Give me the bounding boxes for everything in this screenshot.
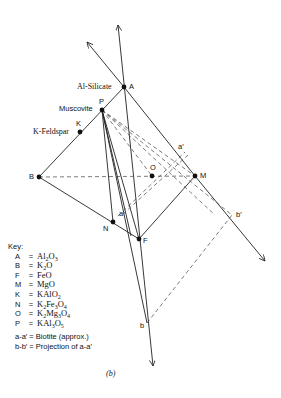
point-M (193, 174, 198, 179)
label-N: N (103, 225, 108, 233)
key-equals: = (25, 280, 37, 290)
key-symbol: P (8, 319, 25, 329)
edge-A-M (124, 87, 195, 176)
label-P: P (99, 98, 104, 106)
line-P-b (102, 110, 147, 323)
key-notes: a-a′ = Biotite (approx.) b-b′ = Projecti… (8, 332, 92, 351)
label-M: M (200, 172, 206, 180)
label-a-prime: a′ (178, 143, 184, 151)
key-symbol: M (8, 280, 25, 290)
key-symbol: B (8, 261, 25, 271)
point-B (37, 175, 42, 180)
key-entry: P=KAl3O5 (8, 319, 92, 329)
point-A (122, 85, 127, 90)
key-symbol: A (8, 252, 25, 262)
point-O (150, 174, 155, 179)
key-symbol: O (8, 309, 25, 319)
key-equals: = (25, 252, 37, 262)
label-b: b (140, 322, 144, 330)
point-K (78, 130, 83, 135)
label-F: F (143, 237, 148, 245)
key-legend: Key: A=Al2O3 B=K2O F=FeO M=MgO K=KAlO2 N… (8, 242, 92, 352)
edge-F-M (139, 176, 195, 239)
key-equals: = (25, 309, 37, 319)
label-A: A (129, 83, 134, 91)
label-K: K (76, 120, 81, 128)
note-biotite: a-a′ = Biotite (approx.) (15, 332, 92, 342)
key-equals: = (25, 319, 37, 329)
figure-caption: (b) (106, 369, 115, 378)
label-O: O (150, 164, 156, 172)
line-P-bprime (102, 110, 232, 215)
point-P (100, 108, 105, 113)
label-muscovite: Muscovite (59, 105, 93, 113)
label-B: B (29, 173, 34, 181)
key-symbol: K (8, 290, 25, 300)
key-formula: KAl3O5 (37, 319, 64, 329)
label-k-feldspar: K-Feldspar (33, 128, 69, 136)
key-symbol: F (8, 271, 25, 281)
key-equals: = (25, 261, 37, 271)
point-F (137, 237, 142, 242)
label-al-silicate: Al-Silicate (77, 83, 112, 91)
key-symbol: N (8, 300, 25, 310)
line-a-aprime (118, 152, 185, 216)
label-a: a (119, 210, 123, 218)
point-N (111, 220, 116, 225)
label-b-prime: b′ (236, 211, 242, 219)
line-P-N (102, 110, 113, 222)
line-b-bprime (147, 215, 232, 323)
line-P-beyond (102, 110, 215, 215)
key-entries: A=Al2O3 B=K2O F=FeO M=MgO K=KAlO2 N=K2Fe… (8, 252, 92, 329)
key-equals: = (25, 271, 37, 281)
key-equals: = (25, 300, 37, 310)
note-projection: b-b′ = Projection of a-a′ (15, 342, 92, 352)
key-equals: = (25, 290, 37, 300)
arrow-up-left (87, 42, 124, 87)
